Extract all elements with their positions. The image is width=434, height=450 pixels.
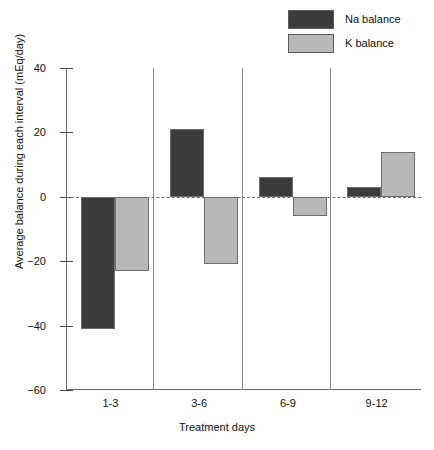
bar-k-balance-1-3 <box>115 197 149 271</box>
legend-swatch-k-balance <box>288 34 334 53</box>
plot-area: 40200−20−40−60 <box>66 68 421 390</box>
legend-swatch-na-balance <box>288 10 334 29</box>
y-axis-tick <box>60 132 73 133</box>
chart-legend: Na balance K balance <box>288 9 428 57</box>
y-axis-tick-label: 40 <box>34 63 46 74</box>
bar-na-balance-1-3 <box>81 197 115 329</box>
y-axis-line <box>66 68 67 390</box>
y-axis-tick-label: −40 <box>27 321 46 332</box>
legend-item-k-balance: K balance <box>288 33 428 54</box>
x-axis-label-9-12: 9-12 <box>332 398 421 409</box>
legend-label-na-balance: Na balance <box>345 14 401 25</box>
y-axis-tick <box>60 326 73 327</box>
x-axis-line <box>66 389 421 390</box>
bar-na-balance-6-9 <box>259 177 293 196</box>
group-separator-line <box>330 68 331 390</box>
y-axis-tick <box>60 68 73 69</box>
y-axis-tick-label: −60 <box>27 385 46 396</box>
y-axis-tick <box>60 261 73 262</box>
group-separator-line <box>153 68 154 390</box>
legend-item-na-balance: Na balance <box>288 9 428 30</box>
bar-k-balance-3-6 <box>204 197 238 265</box>
group-separator-line <box>242 68 243 390</box>
bar-k-balance-9-12 <box>381 152 415 197</box>
y-axis-title: Average balance during each interval (mE… <box>14 2 25 302</box>
y-axis-tick-label: 0 <box>40 192 46 203</box>
y-axis-tick-label: −20 <box>27 256 46 267</box>
x-axis-title: Treatment days <box>0 422 434 433</box>
x-axis-label-1-3: 1-3 <box>66 398 155 409</box>
bar-na-balance-9-12 <box>347 187 381 197</box>
y-axis-tick-label: 20 <box>34 127 46 138</box>
bar-na-balance-3-6 <box>170 129 204 197</box>
x-axis-label-3-6: 3-6 <box>155 398 244 409</box>
bar-k-balance-6-9 <box>293 197 327 216</box>
legend-label-k-balance: K balance <box>345 38 394 49</box>
bar-chart: Na balance K balance 40200−20−40−60 1-33… <box>0 0 434 450</box>
y-axis-tick <box>60 390 73 391</box>
x-axis-label-6-9: 6-9 <box>244 398 333 409</box>
